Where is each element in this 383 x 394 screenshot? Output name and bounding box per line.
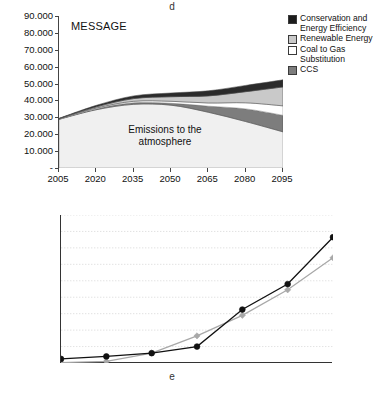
panel-d-x-tick xyxy=(245,168,246,172)
panel-d-y-tick-label: - xyxy=(2,163,53,173)
panel-d-label: d xyxy=(152,1,192,12)
panel-d-x-tick xyxy=(170,168,171,172)
legend-swatch-icon xyxy=(288,35,297,44)
panel-d-y-tick xyxy=(55,50,59,51)
panel-d-y-tick-label: 70.000 xyxy=(2,45,53,55)
legend-swatch-icon xyxy=(288,66,297,75)
panel-d-y-tick-label: 90.000 xyxy=(2,11,53,21)
panel-d-x-tick xyxy=(95,168,96,172)
panel-d-y-tick xyxy=(55,16,59,17)
legend-item-conservation-and-energy-efficiency: Conservation and Energy Efficiency xyxy=(288,14,383,33)
panel-d-y-tick-label: 50.000 xyxy=(2,79,53,89)
panel-e-label: e xyxy=(152,371,192,382)
panel-d-x-tick xyxy=(133,168,134,172)
panel-d-x-tick xyxy=(282,168,283,172)
panel-d-y-tick xyxy=(55,117,59,118)
panel-d-plot-area: MESSAGE Emissions to the atmosphere xyxy=(58,16,282,168)
panel-d-y-tick xyxy=(55,134,59,135)
panel-d-y-tick-label: 80.000 xyxy=(2,28,53,38)
panel-e-y-axis-title: Marginal price of CO2 (2002 US$/tCO2) xyxy=(7,375,40,394)
legend-item-label: Coal to Gas Substitution xyxy=(300,45,383,64)
panel-d-y-tick xyxy=(55,84,59,85)
legend-item-renewable-energy: Renewable Energy xyxy=(288,34,383,44)
panel-d-y-tick-label: 20.000 xyxy=(2,129,53,139)
legend-item-label: CCS xyxy=(300,65,318,75)
panel-d-y-tick xyxy=(55,151,59,152)
panel-d-y-tick xyxy=(55,33,59,34)
panel-d-y-tick-label: 30.000 xyxy=(2,112,53,122)
panel-d-y-tick-label: 10.000 xyxy=(2,146,53,156)
panel-d-y-tick-label: 60.000 xyxy=(2,62,53,72)
legend-item-ccs: CCS xyxy=(288,65,383,75)
panel-e-carbon-price: e Marginal price of CO2 (2002 US$/tCO2) … xyxy=(0,185,383,394)
legend-item-label: Renewable Energy xyxy=(300,34,373,44)
panel-d-y-tick xyxy=(55,67,59,68)
legend-swatch-icon xyxy=(288,15,297,24)
panel-d-emissions-wedges: d MESSAGE Emissions to the atmosphere -1… xyxy=(0,0,383,190)
panel-d-emissions-annotation: Emissions to the atmosphere xyxy=(105,124,225,148)
panel-d-x-tick xyxy=(58,168,59,172)
legend-swatch-icon xyxy=(288,46,297,55)
panel-e-line-chart xyxy=(61,215,333,363)
panel-d-y-tick xyxy=(55,100,59,101)
panel-d-y-tick-label: 40.000 xyxy=(2,95,53,105)
legend-item-coal-to-gas-substitution: Coal to Gas Substitution xyxy=(288,45,383,64)
panel-d-x-tick xyxy=(207,168,208,172)
panel-d-legend: Conservation and Energy EfficiencyRenewa… xyxy=(288,14,383,76)
legend-item-label: Conservation and Energy Efficiency xyxy=(300,14,383,33)
panel-e-plot-area xyxy=(60,215,332,363)
panel-d-x-tick-label: 2095 xyxy=(260,174,304,184)
panel-d-model-annotation: MESSAGE xyxy=(71,20,127,32)
